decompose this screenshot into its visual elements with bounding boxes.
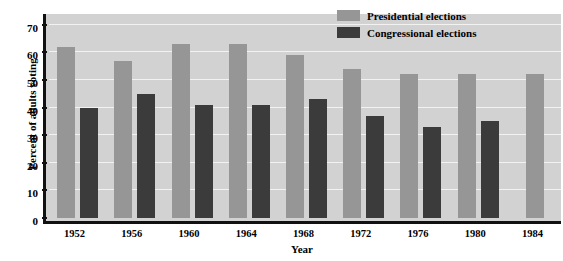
bar-presidential-1968 (286, 55, 304, 218)
y-axis-tick-label: 30 (14, 133, 38, 143)
y-axis-tick-mark (42, 217, 47, 219)
bar-congressional-1964 (252, 105, 270, 218)
x-axis-tick-label: 1960 (179, 228, 200, 239)
bar-congressional-1980 (481, 121, 499, 218)
bar-group (507, 14, 563, 218)
y-axis-tick-label: 0 (14, 216, 38, 226)
bar-congressional-1960 (195, 105, 213, 218)
bar-congressional-1952 (80, 108, 98, 218)
bar-group (278, 14, 335, 218)
y-axis-tick-mark (42, 162, 47, 164)
y-axis-tick-mark (42, 189, 47, 191)
chart-legend: Presidential elections Congressional ele… (337, 8, 557, 42)
bars-layer (49, 14, 561, 218)
legend-label-presidential: Presidential elections (367, 10, 466, 22)
bar-presidential-1956 (114, 61, 132, 218)
y-axis-tick-label: 50 (14, 78, 38, 88)
y-axis-tick-mark (42, 107, 47, 109)
bar-presidential-1976 (400, 74, 418, 218)
bar-presidential-1980 (458, 74, 476, 218)
plot-area (43, 14, 561, 224)
x-axis-tick-label: 1984 (522, 228, 543, 239)
x-axis-tick-labels: 195219561960196419681972197619801984 (46, 228, 561, 242)
y-axis-tick-label: 60 (14, 50, 38, 60)
x-axis-tick-label: 1972 (350, 228, 371, 239)
bar-presidential-1964 (229, 44, 247, 218)
bar-group (392, 14, 449, 218)
bar-presidential-1972 (343, 69, 361, 218)
y-axis-tick-label: 70 (14, 23, 38, 33)
bar-presidential-1984 (526, 74, 544, 218)
legend-item-congressional: Congressional elections (337, 25, 557, 40)
bar-group (106, 14, 163, 218)
y-axis-tick-mark (42, 51, 47, 53)
legend-label-congressional: Congressional elections (367, 27, 477, 39)
bar-group (221, 14, 278, 218)
bar-group (163, 14, 220, 218)
bar-congressional-1968 (309, 99, 327, 218)
x-axis-tick-label: 1976 (407, 228, 428, 239)
y-axis-tick-labels: 010203040506070 (14, 0, 38, 261)
y-axis-tick-label: 40 (14, 106, 38, 116)
legend-item-presidential: Presidential elections (337, 8, 557, 23)
x-axis-tick-label: 1964 (236, 228, 257, 239)
legend-swatch-icon-presidential (337, 10, 360, 21)
bar-congressional-1976 (423, 127, 441, 218)
y-axis-tick-mark (42, 79, 47, 81)
bar-congressional-1972 (366, 116, 384, 218)
x-axis-tick-label: 1968 (293, 228, 314, 239)
x-axis-tick-label: 1956 (121, 228, 142, 239)
bar-group (49, 14, 106, 218)
y-axis-tick-mark (42, 24, 47, 26)
x-axis-title: Year (43, 243, 561, 255)
bar-presidential-1952 (57, 47, 75, 218)
legend-swatch-icon-congressional (337, 27, 360, 38)
bar-group (335, 14, 392, 218)
x-axis-tick-label: 1952 (64, 228, 85, 239)
bar-group (450, 14, 507, 218)
x-axis-tick-label: 1980 (465, 228, 486, 239)
bar-presidential-1960 (172, 44, 190, 218)
bar-chart: Percent of adults voting 010203040506070… (0, 0, 563, 261)
y-axis-tick-label: 10 (14, 188, 38, 198)
y-axis-tick-mark (42, 134, 47, 136)
y-axis-tick-label: 20 (14, 161, 38, 171)
bar-congressional-1956 (137, 94, 155, 218)
